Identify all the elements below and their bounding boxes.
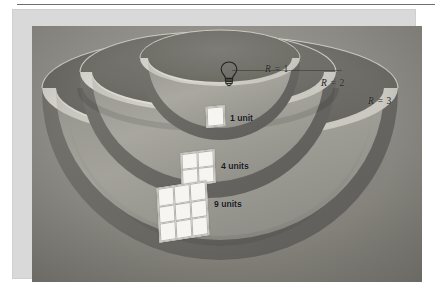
top-horizontal-rule — [17, 4, 435, 5]
page-root: R = 1 R = 2 R = 3 1 unit 4 units 9 units — [0, 0, 442, 296]
nested-shells-illustration — [32, 26, 422, 282]
inverse-square-law-figure: R = 1 R = 2 R = 3 1 unit 4 units 9 units — [32, 26, 422, 282]
figure-mat-border: R = 1 R = 2 R = 3 1 unit 4 units 9 units — [13, 10, 415, 278]
